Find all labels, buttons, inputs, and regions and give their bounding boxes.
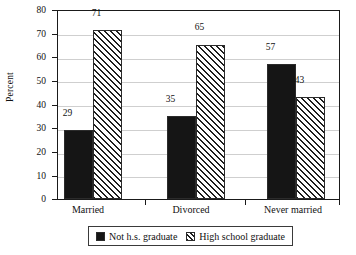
x-tick-mark-1 (145, 200, 146, 205)
x-category-label-never-married: Never married (248, 204, 338, 216)
legend-item-not-hs-graduate: Not h.s. graduate (96, 231, 177, 242)
x-category-label-married: Married (53, 204, 123, 216)
y-tick-label-80: 80 (37, 5, 47, 15)
legend-swatch-solid-icon (96, 232, 105, 241)
value-label-married-high-school-graduate: 71 (82, 8, 111, 18)
y-tick-label-60: 60 (37, 52, 47, 62)
value-label-divorced-high-school-graduate: 65 (185, 22, 214, 32)
legend-swatch-hatch-icon (186, 232, 195, 241)
legend-item-high-school-graduate: High school graduate (186, 231, 285, 242)
bar-chart-figure: 80 70 60 50 40 30 20 10 0 Percent (0, 0, 356, 255)
x-tick-mark-2 (245, 200, 246, 205)
y-tick-label-10: 10 (37, 171, 47, 181)
y-tick-label-20: 20 (37, 147, 47, 157)
y-tick-label-40: 40 (37, 100, 47, 110)
bar-divorced-not-hs-graduate (167, 116, 196, 199)
y-tick-label-50: 50 (37, 76, 47, 86)
value-label-married-not-hs-graduate: 29 (53, 108, 82, 118)
legend-label-high-school-graduate: High school graduate (199, 231, 285, 242)
y-tick-label-70: 70 (37, 29, 47, 39)
plot-area (57, 10, 340, 200)
bar-married-high-school-graduate (93, 30, 122, 199)
bar-divorced-high-school-graduate (196, 45, 225, 199)
y-axis-title: Percent (5, 47, 15, 127)
value-label-never-married-not-hs-graduate: 57 (256, 42, 285, 52)
y-tick-label-0: 0 (41, 194, 46, 204)
bar-married-not-hs-graduate (64, 130, 93, 199)
value-label-never-married-high-school-graduate: 43 (285, 75, 314, 85)
bar-never-married-high-school-graduate (296, 97, 325, 199)
x-category-label-divorced: Divorced (156, 204, 226, 216)
chart-legend: Not h.s. graduate High school graduate (88, 226, 293, 246)
x-tick-mark-3 (339, 200, 340, 205)
legend-label-not-hs-graduate: Not h.s. graduate (109, 231, 177, 242)
y-tick-label-30: 30 (37, 123, 47, 133)
value-label-divorced-not-hs-graduate: 35 (156, 94, 185, 104)
